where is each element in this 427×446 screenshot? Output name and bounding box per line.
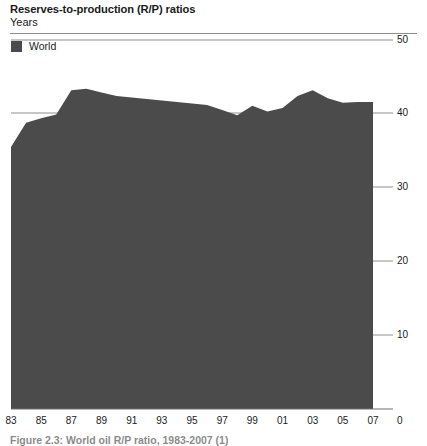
x-tick-07: 07: [367, 415, 378, 427]
x-tick-99: 99: [247, 415, 258, 427]
x-tick-97: 97: [217, 415, 228, 427]
y-axis: 50 40 30 20 10 0: [397, 0, 427, 444]
y-tick-20: 20: [397, 255, 408, 266]
x-tick-91: 91: [126, 415, 137, 427]
x-tick-03: 03: [307, 415, 318, 427]
y-tick-50: 50: [397, 34, 408, 45]
x-tick-01: 01: [277, 415, 288, 427]
figure-caption: Figure 2.3: World oil R/P ratio, 1983-20…: [10, 434, 228, 446]
x-tick-05: 05: [337, 415, 348, 427]
y-tick-40: 40: [397, 107, 408, 118]
series-area-world: [11, 89, 373, 409]
x-axis: 83858789919395979901030507: [0, 415, 427, 429]
x-tick-83: 83: [5, 415, 16, 427]
x-tick-89: 89: [96, 415, 107, 427]
x-tick-95: 95: [186, 415, 197, 427]
x-tick-85: 85: [36, 415, 47, 427]
x-tick-93: 93: [156, 415, 167, 427]
y-tick-30: 30: [397, 181, 408, 192]
x-tick-87: 87: [66, 415, 77, 427]
y-tick-10: 10: [397, 329, 408, 340]
